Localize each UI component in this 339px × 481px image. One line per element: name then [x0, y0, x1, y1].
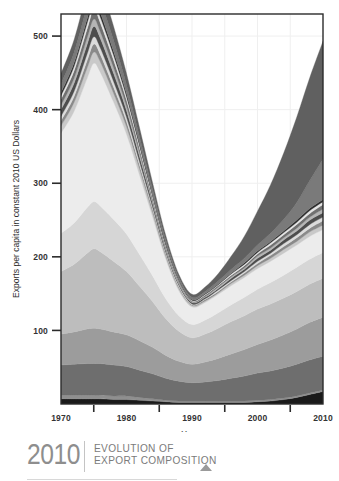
x-axis-ticks: 19701980199020002010	[51, 405, 333, 423]
x-tick-label: 1990	[182, 413, 202, 423]
footer-title-line-2: EXPORT COMPOSITION	[94, 454, 217, 466]
chart-page: 100200300400500 19701980199020002010 Exp…	[0, 0, 339, 481]
y-tick-label: 300	[33, 178, 48, 188]
footer-year: 2010	[27, 439, 80, 469]
y-tick-label: 400	[33, 105, 48, 115]
y-tick-label: 500	[33, 31, 48, 41]
footer-title-block: EVOLUTION OF EXPORT COMPOSITION	[94, 439, 227, 467]
x-tick-label: 1970	[51, 413, 71, 423]
y-axis-title: Exports per capita in constant 2010 US D…	[11, 120, 21, 298]
footer-triangle-icon	[200, 464, 212, 471]
y-tick-label: 100	[33, 326, 48, 336]
x-axis-title: Years	[181, 429, 203, 432]
footer-content: 2010 EVOLUTION OF EXPORT COMPOSITION	[27, 439, 227, 472]
y-tick-label: 200	[33, 252, 48, 262]
y-axis-ticks: 100200300400500	[33, 31, 61, 335]
x-tick-label: 2010	[313, 413, 333, 423]
footer-divider	[84, 441, 85, 472]
chart-container: 100200300400500 19701980199020002010 Exp…	[0, 0, 339, 432]
stacked-area-chart: 100200300400500 19701980199020002010 Exp…	[0, 0, 339, 432]
x-tick-label: 2000	[248, 413, 268, 423]
footer-title-line-1: EVOLUTION OF	[94, 442, 217, 454]
chart-footer: 2010 EVOLUTION OF EXPORT COMPOSITION	[0, 437, 339, 481]
x-tick-label: 1980	[117, 413, 137, 423]
footer-rule	[27, 479, 177, 480]
